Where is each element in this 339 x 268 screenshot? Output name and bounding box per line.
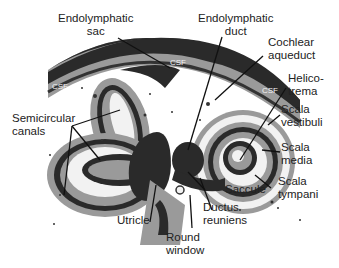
label-scala-tympani: Scala tympani <box>278 175 318 200</box>
label-semicircular-canals: Semicircular canals <box>12 112 75 137</box>
label-helicotrema: Helico- trema <box>288 72 324 97</box>
label-round-window: Round window <box>166 231 204 256</box>
label-endolymphatic-sac: Endolymphatic sac <box>58 12 133 37</box>
label-cochlear-aqueduct: Cochlear aqueduct <box>268 36 315 61</box>
csf-label-left: CSF <box>52 82 68 91</box>
csf-label-right: CSF <box>262 86 278 95</box>
label-utricle: Utricle <box>117 214 150 227</box>
label-saccule: Saccule <box>225 183 266 196</box>
label-endolymphatic-duct: Endolymphatic duct <box>198 12 273 37</box>
label-scala-media: Scala media <box>281 141 312 166</box>
csf-label-top: CSF <box>170 58 186 67</box>
label-scala-vestibuli: Scala vestibuli <box>281 103 323 128</box>
label-ductus-reuniens: Ductus reuniens <box>203 201 247 226</box>
